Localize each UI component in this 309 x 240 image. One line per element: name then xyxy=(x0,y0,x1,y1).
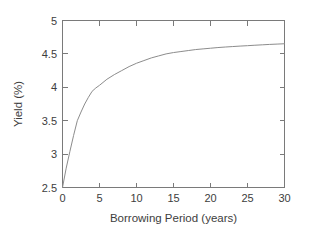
y-tick-label: 3.5 xyxy=(42,115,57,127)
yield-curve-chart: 2.5 3 3.5 4 4.5 5 0 5 10 15 20 25 30 Bor… xyxy=(0,0,309,240)
x-axis-title: Borrowing Period (years) xyxy=(110,212,237,224)
y-tick-label: 4 xyxy=(51,81,57,93)
x-tick-label: 0 xyxy=(59,192,65,204)
x-tick-label: 20 xyxy=(204,192,216,204)
chart-figure: 2.5 3 3.5 4 4.5 5 0 5 10 15 20 25 30 Bor… xyxy=(0,0,309,240)
y-tick-label: 2.5 xyxy=(42,182,57,194)
y-axis-title: Yield (%) xyxy=(12,81,24,127)
x-tick-label: 5 xyxy=(96,192,102,204)
x-tick-label: 25 xyxy=(241,192,253,204)
y-tick-label: 3 xyxy=(51,148,57,160)
y-tick-label: 5 xyxy=(51,15,57,27)
y-tick-label: 4.5 xyxy=(42,48,57,60)
x-tick-label: 15 xyxy=(167,192,179,204)
x-tick-label: 30 xyxy=(278,192,290,204)
x-tick-label: 10 xyxy=(130,192,142,204)
